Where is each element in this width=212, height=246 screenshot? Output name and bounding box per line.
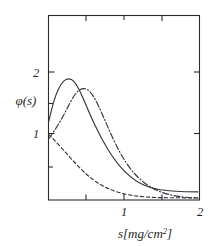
x-axis-label: s[mg/cm2] <box>118 226 172 241</box>
chart-canvas: 2 1 1 2 φ(s) s[mg/cm2] <box>0 0 212 246</box>
plot-frame <box>49 16 200 201</box>
x-tick-label-2: 2 <box>197 205 203 219</box>
y-tick-label-2: 2 <box>33 66 39 80</box>
x-axis-label-end: ] <box>166 226 172 241</box>
x-axis-label-main: s[mg/cm <box>118 226 163 241</box>
chart-figure: 2 1 1 2 φ(s) s[mg/cm2] <box>0 0 212 246</box>
y-axis-label: φ(s) <box>16 93 37 108</box>
x-tick-label-1: 1 <box>121 205 127 219</box>
y-tick-label-1: 1 <box>33 127 39 141</box>
